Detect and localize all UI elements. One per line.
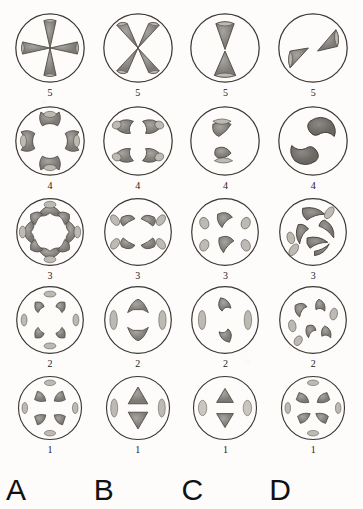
diagram-cell-B1: 1: [94, 373, 182, 459]
row-label-C2: 2: [223, 358, 228, 369]
diagram-cell-D4: 4: [269, 103, 357, 195]
diagram-cell-B4: 4: [94, 103, 182, 195]
disc-A5: [12, 10, 88, 86]
row-label-B1: 1: [135, 444, 140, 455]
row-label-C1: 1: [223, 444, 228, 455]
disc-C3: [188, 195, 262, 269]
row-label-D2: 2: [311, 358, 316, 369]
disc-B1: [103, 373, 173, 443]
disc-D2: [276, 283, 350, 357]
disc-D4: [275, 103, 351, 179]
row-label-D5: 5: [311, 87, 316, 98]
diagram-cell-C4: 4: [182, 103, 270, 195]
diagram-cell-A1: 1: [6, 373, 94, 459]
column-label-D: D: [269, 475, 291, 505]
figure-root: 5: [0, 0, 363, 509]
row-label-C3: 3: [223, 270, 228, 281]
column-label-cell-B: B: [94, 459, 182, 509]
diagram-cell-C3: 3: [182, 195, 270, 283]
diagram-cell-C5: 5: [182, 10, 270, 103]
diagram-cell-C2: 2: [182, 283, 270, 373]
diagram-cell-B2: 2: [94, 283, 182, 373]
diagram-cell-A2: 2: [6, 283, 94, 373]
disc-B3: [101, 195, 175, 269]
disc-B5: [100, 10, 176, 86]
column-label-cell-D: D: [269, 459, 357, 509]
row-label-D4: 4: [311, 180, 316, 191]
disc-D1: [278, 373, 348, 443]
disc-C5: [187, 10, 263, 86]
row-label-C4: 4: [223, 180, 228, 191]
diagram-grid: 5: [0, 0, 363, 509]
column-label-C: C: [182, 475, 204, 505]
diagram-cell-D1: 1: [269, 373, 357, 459]
disc-C4: [187, 103, 263, 179]
row-label-B3: 3: [135, 270, 140, 281]
row-label-B5: 5: [135, 87, 140, 98]
row-label-D1: 1: [311, 444, 316, 455]
row-label-C5: 5: [223, 87, 228, 98]
row-label-A4: 4: [47, 180, 52, 191]
disc-A1: [15, 373, 85, 443]
diagram-cell-D3: 3: [269, 195, 357, 283]
row-label-A3: 3: [47, 270, 52, 281]
column-label-cell-C: C: [182, 459, 270, 509]
column-label-B: B: [94, 475, 114, 505]
row-label-B2: 2: [135, 358, 140, 369]
diagram-cell-D5: 5: [269, 10, 357, 103]
disc-A4: [12, 103, 88, 179]
disc-B2: [101, 283, 175, 357]
row-label-A2: 2: [47, 358, 52, 369]
column-label-cell-A: A: [6, 459, 94, 509]
row-label-D3: 3: [311, 270, 316, 281]
diagram-cell-A3: 3: [6, 195, 94, 283]
diagram-cell-A5: 5: [6, 10, 94, 103]
disc-B4: [100, 103, 176, 179]
disc-D3: [276, 195, 350, 269]
disc-C2: [188, 283, 262, 357]
diagram-cell-B3: 3: [94, 195, 182, 283]
diagram-cell-D2: 2: [269, 283, 357, 373]
diagram-cell-B5: 5: [94, 10, 182, 103]
row-label-B4: 4: [135, 180, 140, 191]
disc-A3: [13, 195, 87, 269]
disc-D5: [275, 10, 351, 86]
diagram-cell-C1: 1: [182, 373, 270, 459]
row-label-A1: 1: [47, 444, 52, 455]
row-label-A5: 5: [47, 87, 52, 98]
diagram-cell-A4: 4: [6, 103, 94, 195]
disc-C1: [190, 373, 260, 443]
column-label-A: A: [6, 475, 26, 505]
disc-A2: [13, 283, 87, 357]
